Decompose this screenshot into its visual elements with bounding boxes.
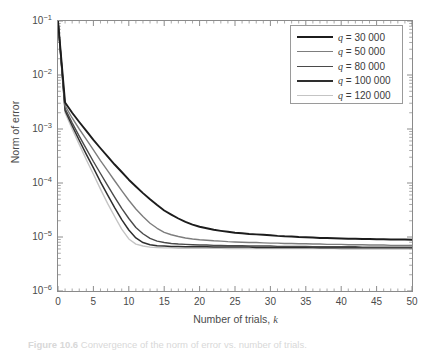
chart-legend: q = 30 000q = 50 000q = 80 000q = 100 00…: [290, 25, 403, 104]
x-tick-label: 20: [185, 296, 215, 307]
chart-figure: Norm of error 10−610−510−410−310−210−1 0…: [0, 0, 430, 332]
x-tick-label: 35: [291, 296, 321, 307]
x-tick-label: 40: [326, 296, 356, 307]
y-tick-label: 10−1: [14, 13, 52, 26]
legend-line-swatch: [297, 36, 333, 38]
legend-label: q = 120 000: [338, 90, 391, 101]
legend-item: q = 120 000: [291, 88, 402, 103]
legend-item: q = 80 000: [291, 59, 402, 74]
legend-line-swatch: [297, 66, 333, 67]
y-tick-label: 10−5: [14, 229, 52, 242]
legend-item: q = 30 000: [291, 30, 402, 45]
x-tick-label: 50: [397, 296, 427, 307]
x-tick-label: 45: [362, 296, 392, 307]
legend-item: q = 50 000: [291, 45, 402, 60]
legend-label: q = 50 000: [338, 46, 385, 57]
legend-label: q = 100 000: [338, 75, 391, 86]
x-axis-label: Number of trials, k: [57, 313, 414, 325]
y-tick-label: 10−2: [14, 67, 52, 80]
x-tick-label: 10: [114, 296, 144, 307]
x-axis-tick-labels: 05101520253035404550: [57, 296, 417, 310]
y-tick-label: 10−4: [14, 175, 52, 188]
legend-line-swatch: [297, 51, 333, 52]
x-tick-label: 5: [78, 296, 108, 307]
y-tick-label: 10−6: [14, 283, 52, 296]
legend-item: q = 100 000: [291, 74, 402, 89]
x-tick-label: 15: [149, 296, 179, 307]
figure-container: Norm of error 10−610−510−410−310−210−1 0…: [0, 0, 430, 351]
y-tick-label: 10−3: [14, 121, 52, 134]
legend-label: q = 30 000: [338, 32, 385, 43]
x-tick-label: 30: [255, 296, 285, 307]
x-tick-label: 0: [43, 296, 73, 307]
figure-caption: Figure 10.6 Convergence of the norm of e…: [28, 339, 408, 351]
legend-line-swatch: [297, 95, 333, 96]
legend-label: q = 80 000: [338, 61, 385, 72]
y-axis-tick-labels: 10−610−510−410−310−210−1: [8, 0, 52, 332]
legend-line-swatch: [297, 80, 333, 82]
x-tick-label: 25: [220, 296, 250, 307]
